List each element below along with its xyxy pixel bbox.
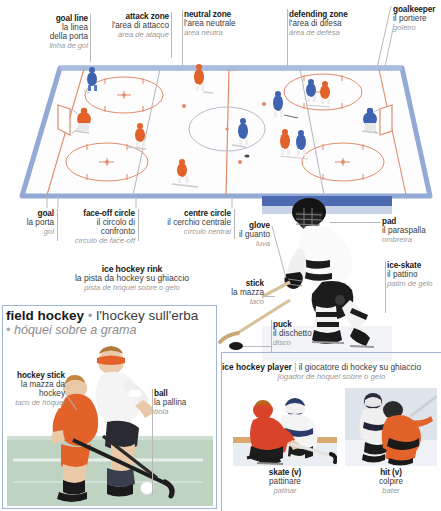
label-goalkeeper: goalkeeper il portiere goleiro bbox=[393, 6, 441, 32]
hit-photo bbox=[345, 388, 437, 466]
label-ball-pt: bola bbox=[154, 408, 206, 416]
leader-face-off-circle bbox=[138, 209, 139, 241]
label-defending-zone-pt: área de defesa bbox=[289, 29, 381, 37]
label-glove-pt: luva bbox=[222, 240, 270, 248]
field-hockey-heading-it: l'hockey sull'erba bbox=[96, 308, 198, 323]
caption-hit: hit (v) colpire bater bbox=[345, 469, 437, 495]
field-hockey-heading-line2: • hóquei sobre a grama bbox=[6, 323, 214, 337]
leader-puck-h bbox=[243, 346, 272, 347]
caption-ice-hockey-player-line1: ice hockey player | il giocatore di hock… bbox=[222, 362, 441, 372]
caption-ice-hockey-player-en: ice hockey player bbox=[222, 362, 292, 372]
label-stick-pt: taco bbox=[216, 298, 264, 306]
field-hockey-photo bbox=[7, 344, 213, 506]
label-puck: puck il dischetto disco bbox=[273, 321, 333, 347]
caption-ice-hockey-rink: ice hockey rink la pista da hockey su gh… bbox=[52, 265, 212, 292]
label-pad-pt: ombreira bbox=[382, 236, 440, 244]
caption-ice-hockey-player-pt: jogador de hóquei sobre o gelo bbox=[222, 372, 441, 381]
label-hockey-stick: hockey stick la mazza da hockey taco de … bbox=[7, 372, 65, 407]
field-hockey-photo-svg bbox=[7, 344, 213, 506]
skate-photo-svg bbox=[233, 392, 337, 466]
ice-hockey-rink-illustration bbox=[0, 57, 441, 205]
label-goalkeeper-pt: goleiro bbox=[393, 24, 441, 32]
label-pad: pad il paraspalla ombreira bbox=[382, 218, 440, 244]
label-ice-skate: ice-skate il pattino patim de gelo bbox=[387, 262, 441, 288]
label-stick: stick la mazza taco bbox=[216, 280, 264, 306]
field-hockey-heading: field hockey • l'hockey sull'erba • hóqu… bbox=[6, 308, 214, 337]
leader-stick bbox=[265, 296, 275, 297]
leader-goal bbox=[57, 209, 58, 241]
field-hockey-panel: field hockey • l'hockey sull'erba • hóqu… bbox=[2, 305, 217, 509]
caption-ice-hockey-player-it: il giocatore di hockey su ghiaccio bbox=[299, 362, 421, 372]
label-centre-circle: centre circle il cerchio centrale círcul… bbox=[143, 210, 231, 236]
label-goal-line: goal line la linea della porta linha de … bbox=[14, 15, 88, 50]
label-goal-line-pt: linha de gol bbox=[14, 42, 88, 50]
leader-ice-skate bbox=[385, 261, 386, 313]
caption-skate-pt: patinar bbox=[233, 487, 337, 495]
skate-photo bbox=[233, 392, 337, 466]
label-neutral-zone: neutral zone l'area neutrale área neutra bbox=[184, 11, 276, 37]
label-ball: ball la pallina bola bbox=[154, 390, 206, 416]
caption-ice-hockey-player-sep: | bbox=[294, 362, 296, 372]
label-centre-circle-pt: círculo central bbox=[143, 228, 231, 236]
leader-puck-v bbox=[271, 320, 272, 352]
label-hockey-stick-pt: taco de hóquei bbox=[7, 399, 65, 407]
rink-svg bbox=[0, 57, 441, 205]
field-hockey-heading-line1: field hockey • l'hockey sull'erba bbox=[6, 308, 214, 323]
label-defending-zone: defending zone l'area di difesa área de … bbox=[289, 11, 381, 37]
label-attack-zone: attack zone l'area di attacco área de at… bbox=[94, 13, 169, 39]
field-hockey-heading-sep1: • bbox=[88, 308, 93, 323]
leader-pad bbox=[330, 222, 380, 223]
field-hockey-heading-pt: hóquei sobre a grama bbox=[14, 323, 137, 337]
caption-hit-pt: bater bbox=[345, 487, 437, 495]
label-face-off-circle-pt: círculo de face-off bbox=[63, 237, 135, 245]
field-hockey-heading-en: field hockey bbox=[6, 308, 84, 323]
leader-attack-zone bbox=[171, 12, 172, 58]
label-goal: goal la porta gol bbox=[4, 210, 54, 236]
label-ice-skate-pt: patim de gelo bbox=[387, 280, 441, 288]
page-root: goal line la linea della porta linha de … bbox=[0, 0, 441, 511]
label-glove: glove il guanto luva bbox=[222, 222, 270, 248]
label-goal-pt: gol bbox=[4, 228, 54, 236]
caption-ice-hockey-rink-pt: pista de hóquei sobre o gelo bbox=[52, 284, 212, 292]
field-hockey-heading-sep2: • bbox=[6, 323, 10, 337]
hit-photo-svg bbox=[345, 388, 437, 466]
leader-ball bbox=[152, 389, 153, 495]
caption-ice-hockey-player: ice hockey player | il giocatore di hock… bbox=[222, 362, 441, 381]
label-attack-zone-pt: área de ataque bbox=[94, 31, 169, 39]
leader-goal-line bbox=[90, 14, 91, 62]
label-face-off-circle: face-off circle il circolo di confronto … bbox=[63, 210, 135, 245]
caption-skate: skate (v) pattinare patinar bbox=[233, 469, 337, 495]
label-neutral-zone-pt: área neutra bbox=[184, 29, 276, 37]
label-puck-pt: disco bbox=[273, 339, 333, 347]
